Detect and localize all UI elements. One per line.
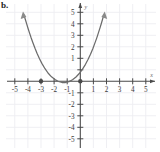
coordinate-plane: -5 -4 -3 -2 -1 1 2 3 4 5 5 4 3 2 1 -1 -2… [0, 0, 160, 152]
y-tick-label: -3 [69, 113, 75, 121]
x-tick-label: -4 [25, 86, 31, 94]
x-tick-label: 1 [92, 86, 96, 94]
y-axis-label: y [84, 4, 88, 10]
x-tick-label: -2 [51, 86, 57, 94]
root-point-origin [78, 79, 82, 83]
y-tick-label: 3 [71, 32, 75, 40]
y-tick-labels: 5 4 3 2 1 -1 -2 -3 -4 -5 [69, 9, 75, 144]
x-tick-label: -5 [12, 86, 18, 94]
root-point-x-minus-3 [39, 79, 43, 83]
y-tick-label: -4 [69, 124, 75, 132]
y-tick-label: 4 [71, 21, 75, 29]
x-axis-label: x [149, 72, 153, 78]
x-tick-label: 4 [131, 86, 135, 94]
y-axis-arrow-icon [78, 3, 82, 8]
x-tick-label: 2 [105, 86, 109, 94]
grid-lines [6, 4, 156, 148]
x-tick-label: 5 [144, 86, 148, 94]
y-tick-label: -1 [69, 90, 75, 98]
panel-label: b. [1, 0, 8, 10]
x-tick-label: 3 [118, 86, 122, 94]
y-tick-label: -5 [69, 136, 75, 144]
y-tick-label: 2 [71, 44, 75, 52]
y-tick-label: -2 [69, 101, 75, 109]
y-tick-label: 1 [71, 55, 75, 63]
y-tick-label: 5 [71, 9, 75, 17]
graph-figure: b. [0, 0, 160, 152]
x-axis-arrow-icon [150, 79, 155, 83]
x-tick-label: -3 [38, 86, 44, 94]
